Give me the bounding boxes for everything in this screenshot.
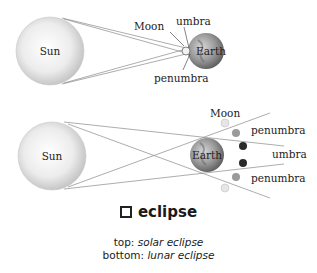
caption-top-prefix: top: bbox=[114, 236, 138, 248]
umbra-label: umbra bbox=[176, 15, 211, 27]
moon-icon-umbra bbox=[239, 142, 247, 150]
lunar-eclipse-diagram: Sun Earth Moon penumbra umbra penumbra bbox=[18, 107, 307, 198]
sun-label: Sun bbox=[40, 45, 61, 57]
moon-label: Moon bbox=[134, 20, 164, 32]
moon-icon-light bbox=[221, 184, 229, 192]
headword: eclipse bbox=[0, 203, 317, 221]
moon-label: Moon bbox=[210, 107, 240, 119]
umbra-label: umbra bbox=[272, 148, 307, 160]
earth-label: Earth bbox=[192, 149, 222, 161]
headword-text: eclipse bbox=[138, 203, 197, 221]
earth-label: Earth bbox=[196, 45, 226, 57]
caption-bottom-term: lunar eclipse bbox=[147, 249, 214, 261]
penumbra-top-label: penumbra bbox=[251, 124, 305, 136]
moon-icon-umbra bbox=[239, 159, 247, 167]
caption-bottom-prefix: bottom: bbox=[103, 249, 148, 261]
sun-label: Sun bbox=[42, 150, 63, 162]
moon-icon-penumbra bbox=[232, 173, 240, 181]
moon-icon bbox=[182, 47, 190, 55]
moon-icon-penumbra bbox=[232, 129, 240, 137]
bullet-square-icon bbox=[120, 206, 132, 218]
solar-eclipse-diagram: Sun Earth Moon umbra penumbra bbox=[16, 15, 226, 85]
penumbra-label: penumbra bbox=[154, 72, 208, 84]
caption-top-term: solar eclipse bbox=[138, 236, 204, 248]
caption-top-line: top: solar eclipse bbox=[0, 236, 317, 249]
caption-bottom-line: bottom: lunar eclipse bbox=[0, 249, 317, 262]
eclipse-diagram: Sun Earth Moon umbra penumbra Sun Earth … bbox=[0, 0, 317, 273]
moon-icon-light bbox=[221, 119, 229, 127]
penumbra-bottom-label: penumbra bbox=[251, 172, 305, 184]
